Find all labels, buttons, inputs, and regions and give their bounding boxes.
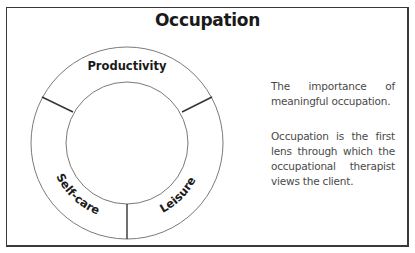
segment-label-productivity: Productivity <box>87 59 167 73</box>
divider-left <box>42 97 73 112</box>
occupation-ring-diagram: Productivity Self-care Leisure <box>0 0 415 253</box>
description-paragraph-2: Occupation is the first lens through whi… <box>271 129 395 189</box>
segment-label-leisure-wrap: Leisure <box>157 174 198 216</box>
divider-right <box>182 97 212 112</box>
description-paragraph-1: The importance of meaningful occupation. <box>271 79 395 109</box>
segment-label-leisure: Leisure <box>157 174 198 216</box>
inner-ring <box>66 82 188 204</box>
